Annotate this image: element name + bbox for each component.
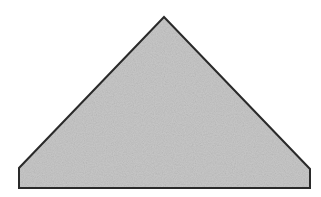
diagram-canvas <box>0 0 321 197</box>
gable-pentagon-shape <box>19 17 310 188</box>
